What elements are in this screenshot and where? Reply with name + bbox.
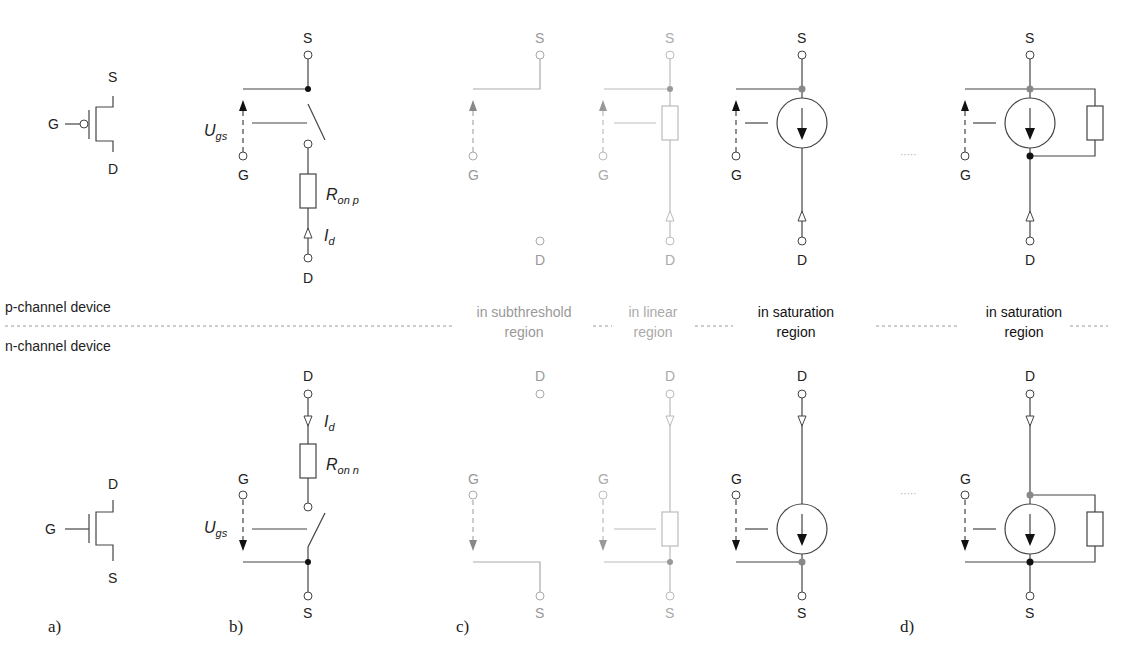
n-channel-row-label: n-channel device xyxy=(5,338,111,354)
region-label-subthreshold: in subthreshold region xyxy=(477,304,572,340)
drain-label: D xyxy=(303,368,313,384)
source-label: S xyxy=(665,30,674,46)
p-channel-subthreshold-model: S G D xyxy=(468,30,545,268)
node-dot xyxy=(305,86,311,92)
ugs-label: Ugs xyxy=(204,122,228,142)
gate-label: G xyxy=(598,167,609,183)
p-channel-saturation-with-resistor-model: S G D xyxy=(960,30,1103,268)
n-channel-switch-model: D S G Ugs Id Ron n xyxy=(204,368,359,621)
drain-label: D xyxy=(1025,252,1035,268)
drain-label: D xyxy=(108,476,118,492)
drain-label: D xyxy=(535,368,545,384)
id-label: Id xyxy=(324,413,335,433)
gate-label: G xyxy=(960,167,971,183)
svg-text:region: region xyxy=(634,324,673,340)
current-arrow-icon xyxy=(797,128,807,140)
n-channel-saturation-model: D S G xyxy=(731,368,827,621)
gate-label: G xyxy=(238,167,249,183)
gate-label: G xyxy=(48,116,59,132)
drain-label: D xyxy=(665,252,675,268)
ron-n-label: Ron n xyxy=(326,456,359,476)
gate-label: G xyxy=(238,471,249,487)
drain-label: D xyxy=(108,161,118,177)
source-label: S xyxy=(535,30,544,46)
gate-label: G xyxy=(468,471,479,487)
svg-text:region: region xyxy=(777,324,816,340)
source-label: S xyxy=(797,605,806,621)
source-label: S xyxy=(665,605,674,621)
svg-text:region: region xyxy=(1005,324,1044,340)
source-label: S xyxy=(108,570,117,586)
drain-label: D xyxy=(303,270,313,286)
svg-text:in linear: in linear xyxy=(628,304,677,320)
drain-label: D xyxy=(797,368,807,384)
drain-label: D xyxy=(797,252,807,268)
gate-label: G xyxy=(731,471,742,487)
p-channel-switch-model: S D G Ugs Ron p Id xyxy=(204,30,359,286)
mosfet-switch-model-diagram: G S D S D G Ugs Ron p Id S G D xyxy=(0,0,1147,658)
voltage-arrow-icon xyxy=(239,100,247,111)
continuation-dots: ····· xyxy=(900,149,917,160)
drain-label: D xyxy=(535,252,545,268)
region-label-saturation: in saturation region xyxy=(758,304,834,340)
source-label: S xyxy=(535,605,544,621)
p-channel-saturation-model: S G D xyxy=(731,30,827,268)
n-channel-saturation-with-resistor-model: D S G xyxy=(960,368,1103,621)
id-label: Id xyxy=(324,227,335,247)
p-channel-row-label: p-channel device xyxy=(5,299,111,315)
source-label: S xyxy=(1025,30,1034,46)
n-channel-mosfet-symbol: G D S xyxy=(45,476,118,586)
source-label: S xyxy=(303,605,312,621)
source-label: S xyxy=(303,30,312,46)
source-label: S xyxy=(1025,605,1034,621)
gate-label: G xyxy=(45,521,56,537)
current-arrow-icon xyxy=(304,228,312,238)
n-channel-subthreshold-model: D G S xyxy=(468,368,545,621)
region-label-linear: in linear region xyxy=(628,304,677,340)
source-label: S xyxy=(797,30,806,46)
drain-label: D xyxy=(1025,368,1035,384)
caption-c: c) xyxy=(456,617,469,636)
ugs-label: Ugs xyxy=(204,519,228,539)
drain-label: D xyxy=(665,368,675,384)
region-label-saturation-resistor: in saturation region xyxy=(986,304,1062,340)
caption-b: b) xyxy=(229,617,243,636)
source-label: S xyxy=(108,69,117,85)
p-channel-mosfet-symbol: G S D xyxy=(48,69,118,177)
svg-text:in saturation: in saturation xyxy=(758,304,834,320)
gate-label: G xyxy=(468,167,479,183)
svg-text:in subthreshold: in subthreshold xyxy=(477,304,572,320)
gate-label: G xyxy=(960,471,971,487)
n-channel-linear-model: D S G xyxy=(598,368,678,621)
svg-text:region: region xyxy=(505,324,544,340)
p-channel-linear-model: S G D xyxy=(598,30,678,268)
ron-p-label: Ron p xyxy=(326,186,359,206)
continuation-dots: ····· xyxy=(900,488,917,499)
caption-d: d) xyxy=(900,617,914,636)
caption-a: a) xyxy=(48,617,61,636)
gate-label: G xyxy=(731,167,742,183)
svg-text:in saturation: in saturation xyxy=(986,304,1062,320)
gate-label: G xyxy=(598,471,609,487)
